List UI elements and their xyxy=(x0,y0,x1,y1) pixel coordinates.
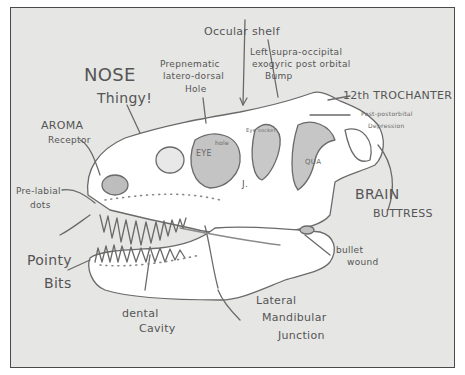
label-lateral-line2: Mandibular xyxy=(262,312,327,324)
label-lateral-line3: Junction xyxy=(278,330,325,342)
label-post-line1: Post-postorbital xyxy=(361,111,413,117)
label-pointy-line1: Pointy xyxy=(27,253,72,268)
label-aroma-line2: Receptor xyxy=(48,136,91,145)
label-inner-qua: QUA xyxy=(305,159,321,166)
label-nose-line1: NOSE xyxy=(84,66,136,85)
label-bullet-line2: wound xyxy=(347,258,379,267)
label-brain-line2: BUTTRESS xyxy=(373,208,433,220)
label-prelabial-line1: Pre-labial xyxy=(16,187,61,196)
label-occular-shelf: Occular shelf xyxy=(204,26,280,38)
label-inner-eye: EYE xyxy=(196,150,212,158)
label-left-supra-line1: Left supra-occipital xyxy=(250,48,342,57)
label-prepnematic-line1: Prepnematic xyxy=(160,60,220,69)
label-inner-j: J. xyxy=(242,180,248,189)
label-inner-eye-note: hole xyxy=(215,140,229,146)
label-prepnematic-line2: latero-dorsal xyxy=(163,72,224,81)
label-dental-line2: Cavity xyxy=(139,323,176,335)
label-prepnematic-line3: Hole xyxy=(185,85,207,94)
label-post-line2: Depression xyxy=(368,123,405,129)
label-dental-line1: dental xyxy=(122,308,159,320)
label-left-supra-line2: exogyric post orbital xyxy=(252,60,351,69)
lower-jaw-outline xyxy=(89,227,335,300)
label-bullet-line1: bullet xyxy=(336,246,363,255)
label-brain-line1: BRAIN xyxy=(355,187,399,202)
label-pointy-line2: Bits xyxy=(44,276,71,291)
label-left-supra-line3: Bump xyxy=(265,72,293,81)
label-prelabial-line2: dots xyxy=(30,201,51,210)
label-inner-eye-socket: Eye socket xyxy=(246,128,276,133)
label-trochanter: 12th TROCHANTER xyxy=(343,90,452,102)
label-aroma-line1: AROMA xyxy=(41,120,83,132)
label-nose-line2: Thingy! xyxy=(97,91,152,106)
label-lateral-line1: Lateral xyxy=(256,295,296,307)
